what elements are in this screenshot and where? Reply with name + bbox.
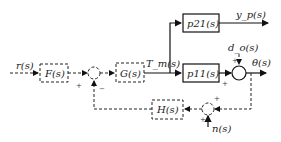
sum1-plus-sign: +: [76, 82, 82, 90]
feedback-block: H(s): [152, 100, 183, 119]
sum-junction-3: [202, 103, 214, 115]
noise-label: n(s): [212, 123, 231, 134]
feedback-label: H(s): [156, 104, 179, 115]
sum1-minus-sign: −: [99, 85, 105, 93]
plant-11-block: p11(s): [183, 64, 219, 82]
sum2-plus-left: +: [222, 80, 228, 88]
sum-junction-1: [88, 67, 100, 79]
sum3-plus-top: +: [214, 95, 220, 103]
controller-block: G(s): [116, 63, 144, 82]
plant-11-label: p11(s): [187, 68, 219, 79]
plant-21-label: p21(s): [187, 18, 219, 29]
plant-21-block: p21(s): [183, 14, 219, 32]
output-label: θ(s): [252, 57, 271, 68]
sum-junction-2: [232, 66, 246, 80]
output-p-label: y_p(s): [235, 9, 266, 21]
prefilter-block: F(s): [40, 64, 68, 82]
sum3-plus-bottom: +: [200, 116, 206, 124]
sum2-plus-top: +: [232, 57, 238, 65]
reference-signal: r(s): [10, 60, 38, 73]
disturbance-label: d_o(s): [228, 42, 258, 54]
controller-label: G(s): [120, 68, 141, 79]
torque-label: T_m(s): [146, 58, 180, 70]
reference-label: r(s): [16, 60, 34, 71]
prefilter-label: F(s): [44, 68, 65, 79]
